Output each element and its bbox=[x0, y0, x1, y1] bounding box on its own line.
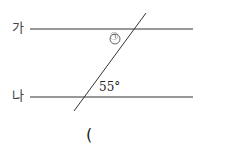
parallel-lines-diagram bbox=[0, 0, 237, 153]
transversal-line bbox=[74, 13, 146, 111]
unknown-angle-label: ㉠ bbox=[110, 33, 118, 41]
given-angle-label: 55° bbox=[99, 81, 120, 93]
answer-paren: ( bbox=[86, 127, 92, 143]
